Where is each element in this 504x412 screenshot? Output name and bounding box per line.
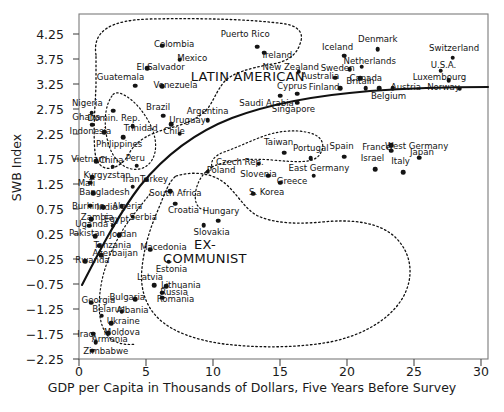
data-point (134, 163, 139, 168)
data-point-label: Puerto Rico (221, 30, 270, 39)
data-point (161, 113, 166, 118)
data-point-label: Italy (391, 157, 410, 166)
data-point-label: Bangladesh (79, 188, 129, 197)
data-point (282, 150, 287, 155)
y-tick-label: 1.25 (20, 177, 64, 192)
data-point-label: Nigeria (72, 99, 103, 108)
data-point (205, 118, 210, 123)
data-point-label: Taiwan (264, 138, 293, 147)
data-point-label: Zimbabwe (83, 347, 128, 356)
data-point-label: Switzerland (429, 44, 479, 53)
data-point-label: S. Korea (249, 188, 284, 197)
data-point-label: Romania (157, 295, 195, 304)
data-point-label: Portugal (293, 144, 329, 153)
y-tick-label: 3.25 (20, 77, 64, 92)
data-point-label: Brazil (146, 103, 170, 112)
data-point-label: Uruguay (169, 116, 206, 125)
y-tick-label: 3.75 (20, 52, 64, 67)
data-point-label: Hungary (203, 207, 240, 216)
data-point (295, 91, 300, 96)
data-point (373, 167, 378, 172)
data-point-label: Austria (391, 83, 421, 92)
data-point-label: Guatemala (97, 73, 144, 82)
y-tick-label: 2.75 (20, 102, 64, 117)
x-tick-label: 0 (59, 364, 99, 379)
y-tick-label: 0.25 (20, 227, 64, 242)
scatter-plot-figure: SWB Index GDP per Capita in Thousands of… (0, 0, 504, 412)
x-tick-label: 20 (327, 364, 367, 379)
data-point (311, 173, 316, 178)
data-point-label: Egypt (104, 215, 129, 224)
data-point (216, 218, 221, 223)
data-point-label: U.S.A. (431, 61, 457, 70)
data-point-label: Armenia (92, 335, 128, 344)
data-point-label: Singapore (272, 105, 315, 114)
data-point-label: Jordan (110, 230, 137, 239)
y-tick-label: 4.25 (20, 27, 64, 42)
data-point (133, 83, 138, 88)
data-point-label: East Germany (288, 164, 349, 173)
data-point (342, 154, 347, 159)
data-point-label: Britain (346, 77, 374, 86)
x-tick-label: 15 (260, 364, 300, 379)
data-point-label: South Africa (149, 189, 201, 198)
group-annotation: EX-COMMUNIST (163, 238, 247, 266)
data-point-label: Poland (207, 166, 236, 175)
data-point-label: Serbia (130, 213, 157, 222)
data-point (401, 170, 406, 175)
data-point-label: Belgium (371, 92, 406, 101)
data-point-label: Chile (163, 127, 185, 136)
data-point-label: Finland (309, 83, 340, 92)
y-tick-label: −0.75 (20, 277, 64, 292)
data-point-label: Ukraine (107, 317, 140, 326)
data-point-label: Cyprus (277, 82, 307, 91)
data-point-label: Iceland (322, 43, 353, 52)
data-point-label: Rwanda (75, 256, 109, 265)
data-point-label: Colombia (154, 40, 194, 49)
data-point-label: Denmark (358, 35, 398, 44)
y-tick-label: −1.25 (20, 302, 64, 317)
data-point-label: Slovenia (240, 170, 277, 179)
y-tick-label: 0.75 (20, 202, 64, 217)
data-point-label: Spain (330, 142, 354, 151)
data-point (377, 86, 382, 91)
data-point-label: Indonesia (70, 127, 112, 136)
x-tick-label: 10 (193, 364, 233, 379)
y-tick-label: −2.25 (20, 352, 64, 367)
data-point (255, 44, 260, 49)
data-point (363, 86, 368, 91)
y-tick-label: 2.25 (20, 127, 64, 142)
data-point (309, 156, 314, 161)
data-point-label: Algeria (112, 202, 142, 211)
data-point (152, 283, 157, 288)
data-point (376, 47, 381, 52)
y-tick-label: −1.75 (20, 327, 64, 342)
data-point-label: Belarus (92, 305, 124, 314)
y-tick-label: −0.25 (20, 252, 64, 267)
data-point-label: Ireland (262, 51, 292, 60)
data-point-label: China (99, 156, 124, 165)
data-point-label: Ghana (72, 113, 100, 122)
data-point-label: Norway (427, 83, 460, 92)
group-annotation: LATIN AMERICAN (191, 68, 305, 83)
data-point-label: Greece (277, 177, 308, 186)
y-tick-marks (73, 34, 79, 359)
data-point-label: Iran (123, 175, 140, 184)
data-point-label: Israel (361, 154, 385, 163)
x-tick-label: 30 (461, 364, 501, 379)
x-tick-label: 5 (126, 364, 166, 379)
data-point-label: Pakistan (69, 229, 105, 238)
data-point (130, 184, 135, 189)
x-axis-title: GDP per Capita in Thousands of Dollars, … (0, 380, 504, 395)
data-point-label: Latvia (137, 273, 163, 282)
data-point-label: El Salvador (137, 63, 185, 72)
x-tick-label: 25 (394, 364, 434, 379)
data-point-label: Turkey (140, 175, 168, 184)
data-point-label: Japan (410, 148, 434, 157)
y-tick-label: 1.75 (20, 152, 64, 167)
data-point-label: Trinidad (124, 124, 158, 133)
data-point-label: Croatia (168, 206, 199, 215)
data-point-label: Peru (126, 154, 145, 163)
data-point-label: Philippines (96, 140, 142, 149)
